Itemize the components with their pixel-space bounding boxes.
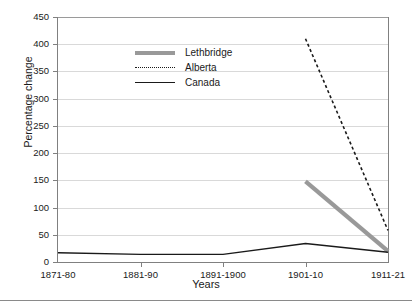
legend-swatch-icon — [133, 48, 177, 58]
y-axis-tick-label: 100 — [33, 202, 49, 213]
x-axis-tick — [306, 262, 307, 267]
x-axis-tick — [141, 262, 142, 267]
y-axis-tick-label: 300 — [33, 93, 49, 104]
legend-swatch-icon — [133, 78, 177, 88]
y-axis-tick-label: 50 — [38, 229, 49, 240]
x-axis-tick — [223, 262, 224, 267]
series-line-lethbridge — [306, 181, 389, 251]
y-axis-tick-label: 350 — [33, 65, 49, 76]
legend-item-canada[interactable]: Canada — [133, 77, 232, 88]
legend-item-label: Lethbridge — [185, 47, 232, 58]
chart-legend: LethbridgeAlbertaCanada — [133, 47, 232, 88]
footer-divider — [0, 300, 412, 301]
legend-item-label: Alberta — [185, 62, 217, 73]
y-axis-tick-label: 150 — [33, 174, 49, 185]
series-line-alberta — [306, 39, 389, 231]
y-axis-tick-label: 200 — [33, 147, 49, 158]
y-axis-tick: 0 — [53, 262, 58, 263]
legend-swatch-icon — [133, 63, 177, 73]
chart-figure: Percentage change 0501001502002503003504… — [0, 0, 412, 308]
y-axis-tick-label: 0 — [44, 256, 49, 267]
y-axis-tick-label: 450 — [33, 11, 49, 22]
legend-item-label: Canada — [185, 77, 220, 88]
legend-item-alberta[interactable]: Alberta — [133, 62, 232, 73]
x-axis-title: Years — [0, 278, 412, 290]
legend-item-lethbridge[interactable]: Lethbridge — [133, 47, 232, 58]
y-axis-tick-label: 400 — [33, 38, 49, 49]
y-axis-tick-label: 250 — [33, 120, 49, 131]
plot-area: 050100150200250300350400450 1871-801881-… — [57, 17, 389, 263]
series-line-canada — [58, 243, 388, 254]
